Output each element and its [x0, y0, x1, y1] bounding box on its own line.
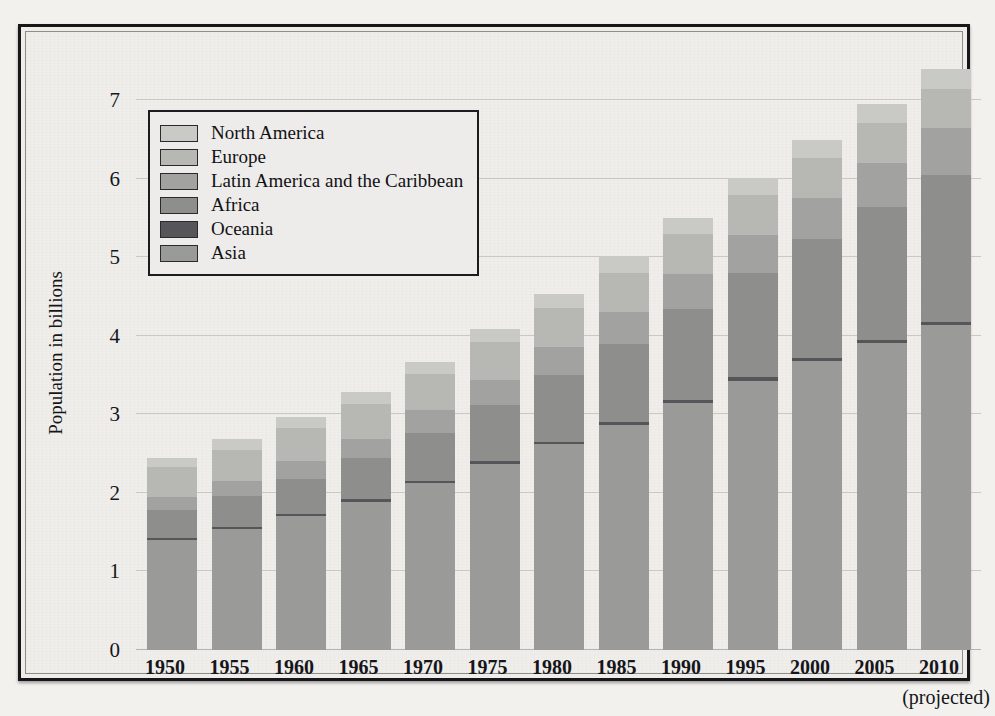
bar-segment-latin-america-and-the-caribbean[interactable] [921, 128, 971, 174]
x-axis-note-projected: (projected) [871, 686, 995, 709]
bar-segment-north-america[interactable] [212, 439, 262, 449]
bar-segment-africa[interactable] [857, 207, 907, 340]
bar-segment-africa[interactable] [663, 309, 713, 400]
bar-segment-europe[interactable] [147, 467, 197, 497]
bar-segment-north-america[interactable] [470, 329, 520, 342]
legend-swatch-icon [160, 221, 198, 238]
y-tick-label-3: 3 [110, 402, 121, 427]
bar-segment-north-america[interactable] [405, 362, 455, 375]
bar-segment-oceania[interactable] [728, 377, 778, 380]
bar-segment-asia[interactable] [792, 361, 842, 650]
legend-swatch-icon [160, 173, 198, 190]
bar-segment-north-america[interactable] [792, 140, 842, 158]
bar-segment-asia[interactable] [921, 325, 971, 650]
bar-segment-oceania[interactable] [405, 481, 455, 483]
bar-segment-oceania[interactable] [921, 322, 971, 325]
legend-item-africa[interactable]: Africa [160, 193, 463, 217]
bar-segment-oceania[interactable] [147, 538, 197, 540]
bar-segment-asia[interactable] [728, 381, 778, 651]
bar-segment-asia[interactable] [276, 516, 326, 650]
bar-segment-africa[interactable] [534, 375, 584, 442]
bar-segment-europe[interactable] [792, 158, 842, 198]
bar-segment-north-america[interactable] [728, 178, 778, 195]
bar-segment-latin-america-and-the-caribbean[interactable] [857, 163, 907, 207]
bar-segment-north-america[interactable] [663, 218, 713, 235]
bar-segment-oceania[interactable] [276, 514, 326, 516]
legend-item-label: Africa [211, 194, 260, 216]
bar-segment-africa[interactable] [276, 479, 326, 514]
x-tick-label-1965: 1965 [327, 656, 391, 679]
legend-item-label: Europe [211, 146, 266, 168]
bar-segment-north-america[interactable] [921, 69, 971, 89]
bar-segment-asia[interactable] [470, 464, 520, 650]
bar-segment-africa[interactable] [728, 273, 778, 378]
bar-segment-europe[interactable] [663, 234, 713, 274]
bar-segment-africa[interactable] [921, 175, 971, 322]
legend-swatch-icon [160, 197, 198, 214]
bar-segment-asia[interactable] [663, 403, 713, 651]
bar-segment-latin-america-and-the-caribbean[interactable] [341, 439, 391, 459]
bar-segment-asia[interactable] [857, 343, 907, 650]
bar-segment-europe[interactable] [728, 195, 778, 235]
bar-segment-north-america[interactable] [276, 417, 326, 428]
figure-frame: Population in billions 01234567 19501955… [18, 24, 970, 681]
bar-segment-north-america[interactable] [599, 257, 649, 273]
bar-segment-africa[interactable] [792, 239, 842, 358]
legend-item-label: Oceania [211, 218, 273, 240]
bar-segment-oceania[interactable] [663, 400, 713, 402]
bar-segment-africa[interactable] [147, 510, 197, 538]
bar-segment-asia[interactable] [599, 425, 649, 651]
bar-segment-latin-america-and-the-caribbean[interactable] [534, 347, 584, 375]
legend-item-europe[interactable]: Europe [160, 145, 463, 169]
bar-segment-latin-america-and-the-caribbean[interactable] [147, 497, 197, 510]
bar-segment-north-america[interactable] [857, 104, 907, 123]
bar-segment-asia[interactable] [147, 540, 197, 650]
bar-segment-europe[interactable] [276, 428, 326, 461]
bar-segment-europe[interactable] [212, 450, 262, 481]
bar-segment-europe[interactable] [341, 404, 391, 439]
bar-segment-europe[interactable] [857, 123, 907, 163]
bar-segment-latin-america-and-the-caribbean[interactable] [405, 410, 455, 433]
bar-segment-asia[interactable] [212, 529, 262, 650]
bar-segment-asia[interactable] [534, 444, 584, 650]
legend-item-asia[interactable]: Asia [160, 241, 463, 265]
chart-legend: North AmericaEuropeLatin America and the… [148, 110, 479, 276]
y-tick-label-7: 7 [110, 88, 121, 113]
bar-segment-oceania[interactable] [857, 340, 907, 343]
bar-segment-africa[interactable] [341, 458, 391, 499]
legend-item-latin-america-and-the-caribbean[interactable]: Latin America and the Caribbean [160, 169, 463, 193]
bar-segment-asia[interactable] [341, 502, 391, 651]
x-tick-label-1995: 1995 [714, 656, 778, 679]
bar-segment-north-america[interactable] [341, 392, 391, 404]
bar-segment-oceania[interactable] [470, 461, 520, 463]
bar-segment-latin-america-and-the-caribbean[interactable] [470, 380, 520, 405]
bar-segment-latin-america-and-the-caribbean[interactable] [276, 461, 326, 478]
legend-item-oceania[interactable]: Oceania [160, 217, 463, 241]
bar-segment-africa[interactable] [405, 433, 455, 481]
legend-item-north-america[interactable]: North America [160, 121, 463, 145]
bar-segment-latin-america-and-the-caribbean[interactable] [212, 481, 262, 496]
bar-segment-europe[interactable] [470, 342, 520, 380]
bar-segment-africa[interactable] [599, 344, 649, 423]
bar-segment-oceania[interactable] [341, 499, 391, 501]
bar-segment-europe[interactable] [921, 89, 971, 128]
bar-segment-oceania[interactable] [212, 527, 262, 529]
bar-segment-north-america[interactable] [534, 294, 584, 308]
bar-segment-europe[interactable] [534, 308, 584, 347]
bar-segment-latin-america-and-the-caribbean[interactable] [663, 274, 713, 309]
bar-segment-oceania[interactable] [599, 422, 649, 424]
bar-segment-latin-america-and-the-caribbean[interactable] [728, 235, 778, 273]
bar-segment-africa[interactable] [212, 496, 262, 527]
bar-segment-oceania[interactable] [534, 442, 584, 444]
bar-segment-africa[interactable] [470, 405, 520, 462]
bar-segment-asia[interactable] [405, 483, 455, 650]
gridline-7 [136, 99, 981, 100]
bar-segment-latin-america-and-the-caribbean[interactable] [599, 312, 649, 343]
bar-segment-oceania[interactable] [792, 358, 842, 361]
bar-segment-europe[interactable] [599, 273, 649, 312]
bar-segment-europe[interactable] [405, 374, 455, 410]
x-tick-label-1950: 1950 [133, 656, 197, 679]
bar-segment-latin-america-and-the-caribbean[interactable] [792, 198, 842, 239]
bar-segment-north-america[interactable] [147, 458, 197, 467]
y-tick-label-0: 0 [110, 638, 121, 663]
